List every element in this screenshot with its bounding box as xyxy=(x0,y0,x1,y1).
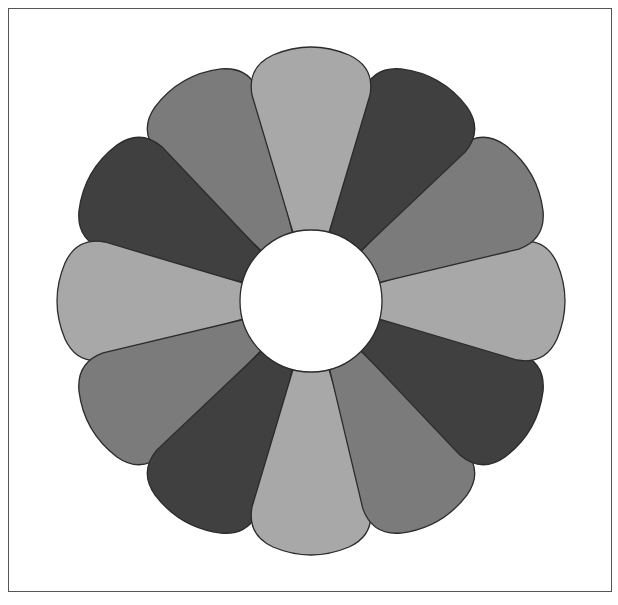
center-circle xyxy=(240,230,382,372)
rosette-diagram xyxy=(0,0,618,605)
